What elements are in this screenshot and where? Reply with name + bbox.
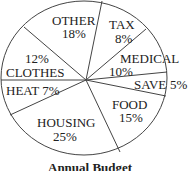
pct-save: 5%: [170, 78, 187, 91]
pct-food: 15%: [119, 111, 143, 124]
label-clothes: CLOTHES: [6, 66, 65, 79]
chart-title: Annual Budget: [48, 160, 132, 171]
pct-clothes: 12%: [25, 52, 49, 65]
label-housing: HOUSING: [37, 116, 96, 129]
pct-tax: 8%: [115, 32, 132, 45]
pct-other: 18%: [62, 27, 86, 40]
pct-housing: 25%: [53, 130, 77, 143]
label-heat: HEAT 7%: [6, 84, 60, 97]
label-save: SAVE: [134, 78, 166, 91]
pct-medical: 10%: [109, 65, 133, 78]
label-tax: TAX: [109, 18, 135, 31]
